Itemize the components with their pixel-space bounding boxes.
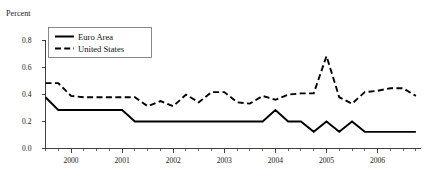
y-tick-label: 0.4 [22,90,32,99]
y-tick-label: 0.2 [22,117,32,126]
chart-figure: Percent 0.8 0.6 0.4 0.2 0.0 200020012002… [0,0,429,181]
legend-label-euro-area: Euro Area [78,32,113,42]
x-tick-label: 2003 [217,156,232,165]
series-line-euro-area [46,97,416,132]
y-axis-title: Percent [6,9,31,18]
y-axis-ticks: 0.8 0.6 0.4 0.2 0.0 [22,36,46,153]
x-axis-ticks: 2000200120022003200420052006 [46,149,416,165]
line-chart-svg: Percent 0.8 0.6 0.4 0.2 0.0 200020012002… [0,0,429,181]
chart-legend: Euro Area United States [49,28,152,58]
series-line-united-states [46,56,416,106]
x-tick-label: 2001 [115,156,130,165]
y-tick-label: 0.0 [22,144,32,153]
x-tick-label: 2004 [268,156,283,165]
y-tick-label: 0.6 [22,63,32,72]
x-tick-label: 2002 [166,156,181,165]
y-tick-label: 0.8 [22,36,32,45]
x-tick-label: 2005 [319,156,334,165]
x-tick-label: 2006 [370,156,385,165]
x-tick-label: 2000 [63,156,78,165]
legend-label-united-states: United States [78,44,125,54]
